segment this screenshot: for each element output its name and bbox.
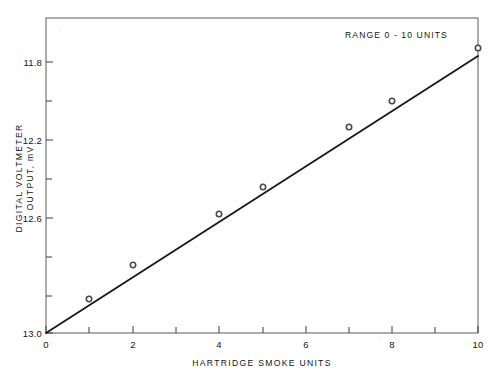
data-point-x10 (475, 45, 480, 50)
chart-figure: 11.8 12.2 12.6 13.0 0 2 4 6 8 10 (0, 0, 500, 372)
x-tick-label-0: 0 (43, 339, 48, 350)
y-tick-label-13.0: 13.0 (23, 328, 42, 339)
x-tick-label-10: 10 (473, 339, 484, 350)
x-tick-label-8: 8 (389, 339, 394, 350)
y-axis-ticks (46, 62, 53, 333)
data-point-x5 (260, 184, 265, 189)
linear-fit-line (46, 56, 478, 333)
x-tick-label-2: 2 (130, 339, 135, 350)
y-tick-label-12.2: 12.2 (23, 135, 42, 146)
fit-line (46, 56, 478, 333)
y-axis-title-line1: DIGITAL VOLTMETER (14, 124, 24, 233)
data-point-x8 (389, 98, 394, 103)
plot-border (46, 18, 478, 333)
data-point-x7 (346, 124, 351, 129)
data-point-x2 (130, 262, 135, 267)
y-axis-title-line2: OUTPUT, mV (25, 145, 35, 210)
data-point-x4 (216, 211, 221, 216)
data-points (86, 45, 480, 301)
plot-frame (46, 18, 478, 333)
y-tick-label-12.6: 12.6 (23, 213, 42, 224)
x-axis-ticks (46, 326, 478, 333)
y-tick-label-11.8: 11.8 (23, 57, 42, 68)
range-annotation: RANGE 0 - 10 UNITS (345, 30, 448, 40)
x-tick-label-4: 4 (216, 339, 221, 350)
x-axis-title: HARTRIDGE SMOKE UNITS (192, 358, 331, 368)
x-tick-labels: 0 2 4 6 8 10 (43, 339, 483, 350)
x-tick-label-6: 6 (303, 339, 308, 350)
calibration-scatter-plot: 11.8 12.2 12.6 13.0 0 2 4 6 8 10 (0, 0, 500, 372)
data-point-x1 (86, 296, 91, 301)
